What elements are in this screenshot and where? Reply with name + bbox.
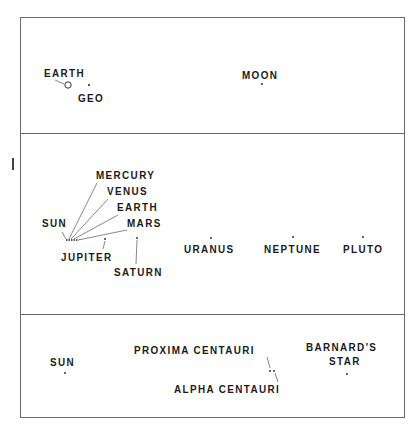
label-neptune: NEPTUNE: [264, 243, 321, 256]
label-pluto: PLUTO: [343, 243, 383, 256]
label-sun-star: SUN: [50, 356, 75, 369]
label-proxima-centauri: PROXIMA CENTAURI: [134, 344, 255, 357]
margin-mark: [12, 158, 14, 170]
label-saturn: SATURN: [114, 266, 163, 279]
label-geo: GEO: [78, 92, 104, 105]
label-earth: EARTH: [44, 67, 85, 80]
label-earth-planet: EARTH: [117, 201, 158, 214]
label-mercury: MERCURY: [96, 169, 155, 182]
label-sun: SUN: [42, 217, 67, 230]
panel-solar-system: [20, 133, 405, 314]
label-barnards-star-line2: STAR: [329, 355, 361, 368]
label-moon: MOON: [242, 69, 278, 82]
label-alpha-centauri: ALPHA CENTAURI: [174, 383, 280, 396]
label-venus: VENUS: [107, 185, 148, 198]
label-uranus: URANUS: [184, 243, 235, 256]
label-mars: MARS: [127, 217, 162, 230]
label-barnards-star-line1: BARNARD'S: [306, 341, 377, 354]
label-jupiter: JUPITER: [61, 251, 112, 264]
